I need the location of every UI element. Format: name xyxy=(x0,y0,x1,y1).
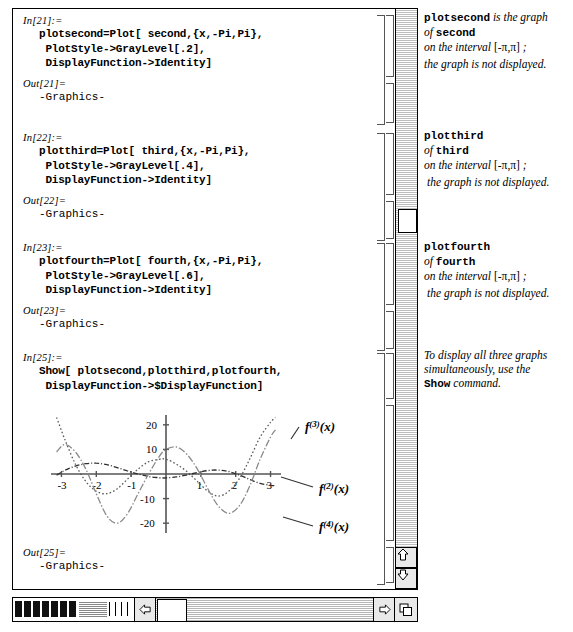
out-label-22: Out[22]= xyxy=(13,194,396,207)
graphics-output-plot[interactable]: -3-2-11232010-10-20f(3)(x)f(2)(x)f(4)(x) xyxy=(43,409,388,539)
out-code-23: -Graphics- xyxy=(13,317,396,332)
note-text-1b: of xyxy=(424,26,436,38)
curve-label: f(4)(x) xyxy=(319,519,349,534)
scroll-left-button[interactable] xyxy=(135,598,156,621)
out-label-25: Out[25]= xyxy=(13,546,396,559)
note-term-fourth: fourth xyxy=(436,256,476,268)
note-interval-2: [-π,π] xyxy=(494,159,520,171)
cell-group-out25: Out[25]= -Graphics- xyxy=(13,546,396,574)
note-term-plotfourth: plotfourth xyxy=(424,241,490,253)
note-term-second: second xyxy=(436,27,476,39)
cell-bracket-in-25[interactable] xyxy=(386,353,394,399)
margin-note-plotfourth: plotfourth of fourth on the interval [-π… xyxy=(424,239,572,300)
in-code-21[interactable]: plotsecond=Plot[ second,{x,-Pi,Pi}, Plot… xyxy=(13,27,396,71)
scroll-right-button[interactable] xyxy=(374,598,395,621)
note-text-3d: ; xyxy=(520,270,527,282)
curve-label: f(3)(x) xyxy=(305,419,335,434)
note-text-2c: on the interval xyxy=(424,159,494,171)
note-term-third: third xyxy=(436,145,469,157)
cell-group-23: In[23]:= plotfourth=Plot[ fourth,{x,-Pi,… xyxy=(13,241,396,332)
in-label-25: In[25]:= xyxy=(13,351,396,364)
notebook-bottom-bar xyxy=(12,597,418,622)
horizontal-scrollbar[interactable] xyxy=(156,598,374,621)
margin-note-show-command: To display all three graphs simultaneous… xyxy=(424,348,572,391)
margin-note-plotthird: plotthird of third on the interval [-π,π… xyxy=(424,128,572,189)
note-interval-3: [-π,π] xyxy=(494,270,520,282)
y-tick-label: -10 xyxy=(140,493,155,505)
cell-bracket-in-22[interactable] xyxy=(386,133,394,195)
note-term-plotthird: plotthird xyxy=(424,130,483,142)
in-label-21: In[21]:= xyxy=(13,14,396,27)
out-label-21: Out[21]= xyxy=(13,77,396,90)
vertical-scrollbar-thumb[interactable] xyxy=(398,209,417,233)
cell-group-21: In[21]:= plotsecond=Plot[ second,{x,-Pi,… xyxy=(13,14,396,105)
note-text-1c: on the interval xyxy=(424,41,494,53)
window-resize-handle[interactable] xyxy=(395,598,417,621)
cell-bracket-out-22[interactable] xyxy=(386,201,394,239)
out-code-21: -Graphics- xyxy=(13,90,396,105)
resize-grip-icon xyxy=(399,603,413,617)
out-label-23: Out[23]= xyxy=(13,304,396,317)
y-tick-label: -20 xyxy=(140,517,155,529)
cell-bracket-in-23[interactable] xyxy=(386,243,394,305)
final-note-line3: command. xyxy=(450,377,500,389)
in-code-23[interactable]: plotfourth=Plot[ fourth,{x,-Pi,Pi}, Plot… xyxy=(13,254,396,298)
cell-group-25: In[25]:= Show[ plotsecond,plotthird,plot… xyxy=(13,351,396,393)
cell-bracket-group-22[interactable] xyxy=(377,133,385,241)
cell-group-22: In[22]:= plotthird=Plot[ third,{x,-Pi,Pi… xyxy=(13,131,396,222)
annotation-leader xyxy=(281,477,313,487)
annotation-leader xyxy=(283,517,313,526)
y-tick-label: 20 xyxy=(146,419,158,431)
note-term-plotsecond: plotsecond xyxy=(424,12,490,24)
note-text-3b: of xyxy=(424,255,436,267)
magnification-midsection xyxy=(79,601,107,617)
note-text-3e: the graph is not displayed. xyxy=(427,287,549,299)
magnification-indicator[interactable] xyxy=(13,598,135,621)
note-text-1a: is the graph xyxy=(490,11,548,23)
in-code-25[interactable]: Show[ plotsecond,plotthird,plotfourth, D… xyxy=(13,364,396,393)
cell-bracket-group-23[interactable] xyxy=(377,243,385,351)
final-note-line2: simultaneously, use the xyxy=(424,363,530,375)
annotation-leader xyxy=(291,427,299,439)
note-text-1d: ; xyxy=(520,41,527,53)
x-tick-label: -1 xyxy=(127,479,136,491)
note-text-2e: the graph is not displayed. xyxy=(427,176,549,188)
cell-bracket-group-25[interactable] xyxy=(377,353,385,585)
notebook-window: In[21]:= plotsecond=Plot[ second,{x,-Pi,… xyxy=(12,8,418,590)
note-interval-1: [-π,π] xyxy=(494,41,520,53)
scroll-left-arrow-icon xyxy=(139,603,152,616)
cell-bracket-out-23[interactable] xyxy=(386,311,394,349)
note-term-show: Show xyxy=(424,378,450,390)
vertical-scrollbar[interactable] xyxy=(395,9,417,569)
screenshot-root: In[21]:= plotsecond=Plot[ second,{x,-Pi,… xyxy=(0,0,573,632)
cell-bracket-in-21[interactable] xyxy=(386,15,394,77)
y-tick-label: 10 xyxy=(146,443,158,455)
note-text-3c: on the interval xyxy=(424,270,494,282)
scroll-down-arrow-icon xyxy=(396,569,410,583)
cell-bracket-group-21[interactable] xyxy=(377,15,385,125)
x-tick-label: -3 xyxy=(57,479,67,491)
in-label-23: In[23]:= xyxy=(13,241,396,254)
final-note-line1: To display all three graphs xyxy=(424,349,547,361)
note-text-2d: ; xyxy=(520,159,527,171)
plot-svg: -3-2-11232010-10-20f(3)(x)f(2)(x)f(4)(x) xyxy=(43,409,388,539)
cell-bracket-out-21[interactable] xyxy=(386,83,394,123)
scroll-right-arrow-icon xyxy=(378,603,391,616)
magnification-fill xyxy=(15,601,78,617)
scroll-down-button[interactable] xyxy=(395,568,417,589)
in-code-22[interactable]: plotthird=Plot[ third,{x,-Pi,Pi}, PlotSt… xyxy=(13,144,396,188)
note-text-1e: the graph is not displayed. xyxy=(424,58,546,70)
scroll-up-button[interactable] xyxy=(395,547,417,568)
cell-bracket-graphic-25[interactable] xyxy=(386,405,394,541)
notebook-content-area[interactable]: In[21]:= plotsecond=Plot[ second,{x,-Pi,… xyxy=(13,9,396,589)
in-label-22: In[22]:= xyxy=(13,131,396,144)
cell-bracket-out-25[interactable] xyxy=(386,547,394,583)
out-code-25: -Graphics- xyxy=(13,559,396,574)
magnification-ticks xyxy=(109,602,131,616)
horizontal-scrollbar-thumb[interactable] xyxy=(157,599,187,622)
scroll-up-arrow-icon xyxy=(396,548,410,562)
note-text-2b: of xyxy=(424,144,436,156)
out-code-22: -Graphics- xyxy=(13,207,396,222)
curve-label: f(2)(x) xyxy=(319,481,349,496)
margin-note-plotsecond: plotsecond is the graph of second on the… xyxy=(424,10,572,71)
